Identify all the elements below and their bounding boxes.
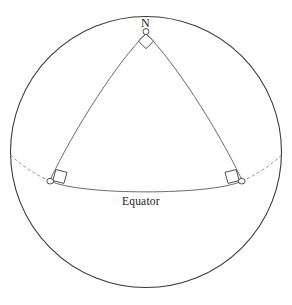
sphere-diagram-canvas bbox=[0, 0, 292, 305]
spherical-triangle-figure: N Equator bbox=[0, 0, 292, 305]
equator-left-right-angle-marker bbox=[53, 170, 67, 184]
equator-front-arc bbox=[50, 181, 242, 192]
equator-right-vertex-dot bbox=[238, 178, 245, 184]
equator-left-vertex-dot bbox=[47, 178, 54, 184]
equator-label: Equator bbox=[122, 196, 160, 208]
meridian-arc-left bbox=[51, 35, 146, 180]
equator-right-right-angle-marker bbox=[225, 170, 239, 184]
equator-hidden-arc-left bbox=[11, 156, 50, 182]
sphere-outline-circle bbox=[11, 17, 282, 288]
meridian-arc-right bbox=[147, 35, 242, 180]
north-pole-label: N bbox=[141, 17, 150, 29]
north-pole-right-angle-marker bbox=[138, 34, 153, 49]
equator-hidden-arc-right bbox=[242, 156, 281, 182]
